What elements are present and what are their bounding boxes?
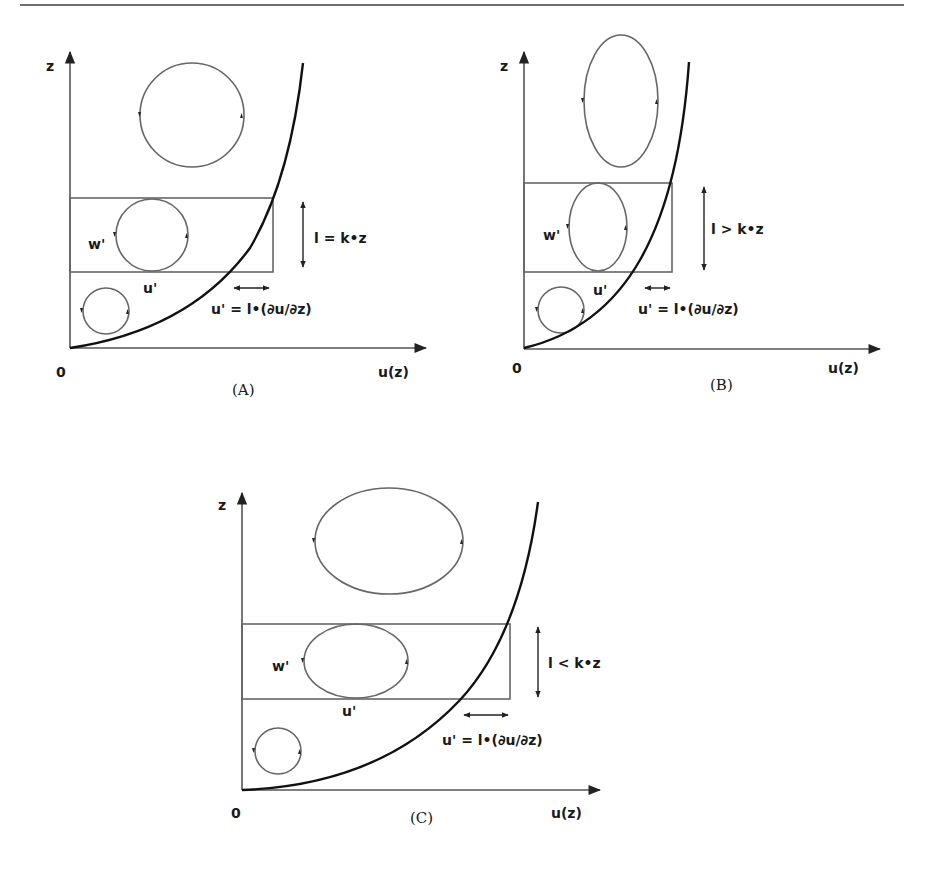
- z-axis-label: z: [46, 58, 54, 74]
- origin-label: 0: [512, 360, 522, 376]
- u-prime-label: u': [593, 282, 607, 298]
- small-eddy: [255, 728, 301, 774]
- u-axis-label: u(z): [551, 805, 582, 821]
- z-axis-label: z: [218, 497, 226, 513]
- mid-eddy: [569, 183, 627, 271]
- u-axis-label: u(z): [378, 364, 409, 380]
- length-relation: l = k•z: [314, 230, 367, 246]
- mixing-length-diagram: z u(z) 0 (A) w' u' l = k•z u' = l•(∂u/∂z…: [0, 0, 925, 869]
- length-relation: l < k•z: [548, 655, 601, 671]
- caption: (B): [710, 376, 733, 394]
- w-prime-label: w': [88, 236, 105, 252]
- mid-eddy: [116, 199, 188, 271]
- u-prime-label: u': [143, 280, 157, 296]
- mixing-layer-box: [70, 198, 273, 272]
- panel-c: z u(z) 0 (C) w' u' l < k•z u' = l•(∂u/∂z…: [218, 488, 601, 827]
- large-eddy: [140, 63, 244, 167]
- u-prime-label: u': [342, 703, 356, 719]
- caption: (C): [410, 809, 433, 827]
- large-eddy: [315, 488, 463, 594]
- origin-label: 0: [56, 364, 66, 380]
- small-eddy: [83, 288, 129, 334]
- z-axis-label: z: [500, 58, 508, 74]
- velocity-relation: u' = l•(∂u/∂z): [442, 732, 543, 748]
- length-relation: l > k•z: [711, 221, 764, 237]
- arrow-up-icon: [240, 113, 243, 118]
- large-eddy: [584, 35, 658, 167]
- origin-label: 0: [231, 805, 241, 821]
- w-prime-label: w': [543, 227, 560, 243]
- u-axis-label: u(z): [828, 360, 859, 376]
- panel-a: z u(z) 0 (A) w' u' l = k•z u' = l•(∂u/∂z…: [46, 52, 426, 399]
- w-prime-label: w': [272, 658, 289, 674]
- caption: (A): [232, 381, 255, 399]
- velocity-relation: u' = l•(∂u/∂z): [638, 301, 739, 317]
- mid-eddy: [304, 624, 408, 698]
- velocity-relation: u' = l•(∂u/∂z): [211, 301, 312, 317]
- panel-b: z u(z) 0 (B) w' u' l > k•z u' = l•(∂u/∂z…: [500, 35, 880, 394]
